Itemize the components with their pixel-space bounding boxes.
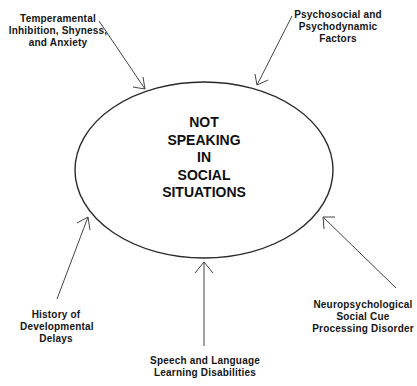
center-line: SITUATIONS xyxy=(124,184,284,202)
arrow-history xyxy=(57,217,90,299)
factor-line: Processing Disorder xyxy=(310,323,416,335)
factor-line: Inhibition, Shyness, xyxy=(8,25,108,37)
factor-line: Neuropsychological xyxy=(310,299,416,311)
factor-line: Social Cue xyxy=(310,311,416,323)
factor-line: History of xyxy=(20,309,92,321)
center-line: NOT xyxy=(124,114,284,132)
center-line: SOCIAL xyxy=(124,167,284,185)
factor-line: Temperamental xyxy=(8,13,108,25)
center-line: IN xyxy=(124,149,284,167)
factor-line: Psychodynamic xyxy=(290,21,386,33)
factor-label-neuro: Neuropsychological Social Cue Processing… xyxy=(310,299,416,335)
factor-line: Developmental xyxy=(20,321,92,333)
factor-label-history: History of Developmental Delays xyxy=(20,309,92,345)
factor-label-temperamental: Temperamental Inhibition, Shyness, and A… xyxy=(8,13,108,49)
factor-line: Psychosocial and xyxy=(290,9,386,21)
arrow-psychosocial xyxy=(255,16,292,85)
factor-line: Speech and Language xyxy=(150,355,260,367)
central-concept-label: NOT SPEAKING IN SOCIAL SITUATIONS xyxy=(124,114,284,202)
factor-line: Factors xyxy=(290,33,386,45)
factor-label-psychosocial: Psychosocial and Psychodynamic Factors xyxy=(290,9,386,45)
factor-line: Learning Disabilities xyxy=(150,367,260,379)
center-line: SPEAKING xyxy=(124,132,284,150)
factor-label-speech: Speech and Language Learning Disabilitie… xyxy=(150,355,260,379)
arrow-speech xyxy=(195,262,213,346)
factor-line: and Anxiety xyxy=(8,37,108,49)
diagram: NOT SPEAKING IN SOCIAL SITUATIONS Temper… xyxy=(0,0,417,386)
arrow-neuro xyxy=(323,217,396,288)
factor-line: Delays xyxy=(20,333,92,345)
